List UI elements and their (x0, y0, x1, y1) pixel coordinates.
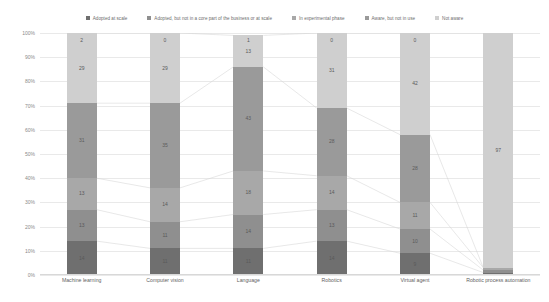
legend-item-adopted-at-scale[interactable]: Adopted at scale (86, 16, 128, 21)
bar-segment[interactable]: 11 (150, 222, 180, 249)
bar-segment[interactable]: 29 (67, 33, 97, 103)
bar-column[interactable]: 11111435290 (150, 33, 180, 275)
bar-segment-value-label: 11 (162, 259, 167, 264)
legend-label: Adopted, but not in a core part of the b… (154, 16, 272, 21)
bar-segment-value-label: 31 (329, 68, 335, 73)
bar-segment-value-label: 13 (329, 223, 335, 228)
legend-label: Adopted at scale (93, 16, 128, 21)
bar-segment[interactable]: 9 (400, 253, 430, 275)
y-axis-tick-label: 70% (25, 103, 35, 109)
bar-segment[interactable]: 43 (233, 67, 263, 171)
legend-item-not-aware[interactable]: Not aware (435, 16, 463, 21)
legend-swatch-icon (86, 16, 90, 20)
bar-top-value-label: 0 (150, 37, 180, 43)
bar-segment-value-label: 42 (412, 81, 418, 86)
x-axis-line (40, 274, 540, 275)
bar-segment[interactable]: 10 (400, 229, 430, 253)
bar-column[interactable]: 11141843131 (233, 33, 263, 275)
bar-segment[interactable]: 31 (317, 33, 347, 108)
x-axis-labels: Machine learningComputer visionLanguageR… (40, 277, 540, 295)
y-axis-tick-label: 90% (25, 54, 35, 60)
bar-segment-value-label: 43 (246, 116, 252, 121)
bar-segment-value-label: 10 (412, 239, 418, 244)
bar-segment[interactable]: 31 (67, 103, 97, 178)
y-axis-labels: 100%90%80%70%60%50%40%30%20%10%0% (0, 33, 37, 275)
bar-segment[interactable]: 11 (150, 248, 180, 275)
bar-column[interactable]: 9101128420 (400, 33, 430, 275)
bar-segment-value-label: 11 (162, 233, 167, 238)
legend-swatch-icon (365, 16, 369, 20)
x-axis-category-label: Robotics (322, 277, 342, 283)
bar-segment-value-label: 28 (329, 139, 335, 144)
bar-column[interactable]: 14131428310 (317, 33, 347, 275)
bar-segment-value-label: 14 (329, 190, 335, 195)
bar-segment[interactable]: 11 (400, 202, 430, 229)
bar-segment[interactable]: 13 (67, 210, 97, 241)
bar-top-value-label: 2 (67, 37, 97, 43)
legend-item-adopted-not-core[interactable]: Adopted, but not in a core part of the b… (147, 16, 272, 21)
bar-column[interactable]: 14131331292 (67, 33, 97, 275)
bar-segment[interactable]: 13 (67, 178, 97, 209)
y-axis-tick-label: 100% (22, 30, 35, 36)
legend-swatch-icon (292, 16, 296, 20)
legend-label: Aware, but not in use (372, 16, 416, 21)
bar-segment-value-label: 31 (79, 138, 85, 143)
bar-segment[interactable]: 14 (317, 241, 347, 275)
bar-top-value-label: 0 (400, 37, 430, 43)
bar-segment[interactable]: 18 (233, 171, 263, 215)
bar-segment[interactable] (483, 268, 513, 270)
bar-segment-value-label: 14 (246, 229, 252, 234)
legend-label: In experimental phase (299, 16, 345, 21)
bar-segment[interactable]: 14 (317, 176, 347, 210)
bar-segment-value-label: 13 (79, 191, 85, 196)
y-axis-tick-label: 0% (28, 272, 35, 278)
bar-segment-value-label: 97 (496, 148, 502, 153)
chart-legend: Adopted at scale Adopted, but not in a c… (0, 11, 549, 25)
bar-top-value-label: 0 (317, 37, 347, 43)
bar-segment[interactable]: 29 (150, 33, 180, 103)
bar-segment[interactable]: 28 (317, 108, 347, 176)
bar-segment[interactable]: 35 (150, 103, 180, 188)
bar-segment-value-label: 11 (412, 213, 417, 218)
legend-swatch-icon (435, 16, 439, 20)
bar-segment[interactable]: 14 (233, 215, 263, 249)
bar-segment[interactable]: 11 (233, 248, 263, 275)
x-axis-category-label: Robotic process automation (466, 277, 530, 283)
bar-segment-value-label: 29 (79, 66, 85, 71)
y-axis-tick-label: 60% (25, 127, 35, 133)
y-axis-tick-label: 50% (25, 151, 35, 157)
x-axis-category-label: Computer vision (146, 277, 183, 283)
bar-segment[interactable]: 13 (317, 210, 347, 241)
bar-segment-value-label: 13 (246, 49, 252, 54)
x-axis-category-label: Machine learning (62, 277, 102, 283)
x-axis-category-label: Language (237, 277, 260, 283)
y-axis-tick-label: 80% (25, 78, 35, 84)
bar-segment-value-label: 14 (79, 256, 85, 261)
bar-segment[interactable]: 14 (67, 241, 97, 275)
y-axis-tick-label: 40% (25, 175, 35, 181)
bar-segment-value-label: 29 (162, 66, 168, 71)
bar-segment-value-label: 28 (412, 166, 418, 171)
bar-segment[interactable] (483, 270, 513, 272)
bar-column[interactable]: 97 (483, 33, 513, 275)
bar-segment-value-label: 13 (79, 223, 85, 228)
bar-segment[interactable]: 14 (150, 188, 180, 222)
bar-segment[interactable]: 97 (483, 33, 513, 268)
legend-item-experimental-phase[interactable]: In experimental phase (292, 16, 345, 21)
y-axis-tick-label: 30% (25, 199, 35, 205)
legend-item-aware-not-in-use[interactable]: Aware, but not in use (365, 16, 416, 21)
gridline (40, 275, 540, 276)
bar-top-value-label: 1 (233, 37, 263, 43)
bar-segment-value-label: 14 (162, 202, 168, 207)
bar-columns: 1413133129211111435290111418431311413142… (40, 33, 540, 275)
bar-segment-value-label: 9 (414, 262, 417, 267)
bar-segment[interactable]: 42 (400, 33, 430, 135)
y-axis-tick-label: 10% (25, 248, 35, 254)
legend-swatch-icon (147, 16, 151, 20)
bar-segment-value-label: 11 (246, 259, 251, 264)
plot-area: 1413133129211111435290111418431311413142… (40, 33, 540, 275)
bar-segment-value-label: 14 (329, 256, 335, 261)
bar-segment[interactable]: 28 (400, 135, 430, 203)
bar-segment-value-label: 35 (162, 143, 168, 148)
bar-segment-value-label: 18 (246, 190, 252, 195)
